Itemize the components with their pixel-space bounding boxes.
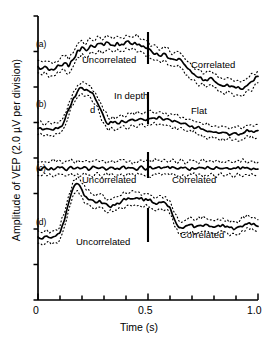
y-axis-label: Amplitude of VEP (2.0 µV per division) bbox=[10, 25, 22, 275]
panel-tag-b: (b) bbox=[36, 99, 46, 109]
annotation-b-flat: Flat bbox=[191, 105, 207, 116]
annotation-c-correlated: Correlated bbox=[172, 174, 216, 185]
annotation-c-uncorrelated: Uncorrelated bbox=[82, 174, 136, 185]
annotation-d-uncorrelated: Uncorrelated bbox=[76, 236, 130, 247]
panel-tag-c: (c) bbox=[36, 163, 46, 173]
x-tick-label-0: 0 bbox=[33, 304, 39, 316]
panel-tag-d: (d) bbox=[36, 217, 46, 227]
x-tick-label-0point5: 0.5 bbox=[138, 304, 153, 316]
vep-figure: Amplitude of VEP (2.0 µV per division) T… bbox=[0, 0, 278, 338]
panel-tag-a: (a) bbox=[36, 39, 46, 49]
x-axis-label: Time (s) bbox=[0, 321, 278, 333]
annotation-b-in-depth: In depth bbox=[114, 90, 148, 101]
x-tick-label-1point0: 1.0 bbox=[247, 304, 262, 316]
annotation-a-uncorrelated: Uncorrelated bbox=[82, 54, 136, 65]
annotation-d-correlated: Correlated bbox=[180, 229, 224, 240]
annotation-a-correlated: Correlated bbox=[191, 59, 235, 70]
annotation-b-d: d bbox=[90, 104, 95, 115]
